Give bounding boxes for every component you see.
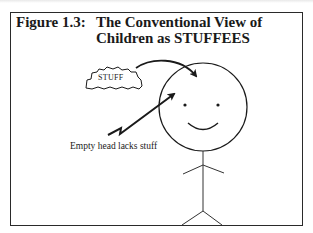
smile-icon (188, 123, 218, 130)
curved-arrow-icon (136, 61, 196, 76)
lightning-arrow-icon (108, 94, 174, 135)
caption-empty-head: Empty head lacks stuff (70, 141, 157, 151)
stick-body-icon (182, 151, 224, 225)
cloud-label: STUFF (98, 73, 124, 82)
stuffee-diagram (0, 0, 313, 233)
right-eye-icon (216, 103, 219, 106)
smiley-head-icon (159, 63, 247, 151)
left-eye-icon (183, 103, 186, 106)
